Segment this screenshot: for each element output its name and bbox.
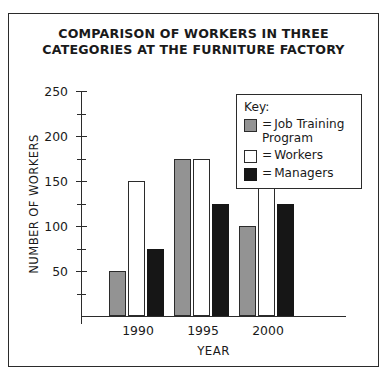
y-tick-100: 100 (76, 226, 87, 227)
y-tick-label-100: 100 (44, 219, 68, 234)
y-tick-label-250: 250 (44, 84, 68, 99)
legend-title: Key: (244, 100, 355, 114)
bar-2000-managers (277, 204, 294, 317)
x-axis-title: YEAR (81, 344, 346, 358)
chart-title-line-2: CATEGORIES AT THE FURNITURE FACTORY (9, 42, 378, 58)
legend-equals-sign-1: = (262, 117, 272, 131)
y-tick-label-150: 150 (44, 174, 68, 189)
legend-swatch-job-training-program-icon (244, 119, 257, 132)
legend-equals-sign-3: = (262, 166, 272, 180)
chart-title: COMPARISON OF WORKERS IN THREE CATEGORIE… (9, 26, 378, 58)
bar-2000-job-training-program (239, 226, 256, 316)
legend-equals-sign-2: = (262, 148, 272, 162)
chart-title-line-1: COMPARISON OF WORKERS IN THREE (9, 26, 378, 42)
legend-item-job-training-program: =Job Training Program (244, 117, 355, 145)
legend-item-managers: =Managers (244, 166, 355, 181)
y-tick-175 (77, 159, 86, 160)
y-tick-200: 200 (76, 136, 87, 137)
y-tick-250: 250 (76, 91, 87, 92)
y-tick-125 (77, 204, 86, 205)
y-tick-25 (77, 294, 86, 295)
legend-label-text-1: Job Training Program (262, 117, 344, 145)
legend-label-text-2: Workers (274, 148, 323, 162)
y-tick-75 (77, 249, 86, 250)
legend-swatch-managers-icon (244, 168, 257, 181)
x-tick-label-1990: 1990 (122, 323, 154, 338)
y-tick-label-50: 50 (52, 264, 68, 279)
y-axis-line (81, 91, 82, 324)
y-tick-label-200: 200 (44, 129, 68, 144)
y-tick-150: 150 (76, 181, 87, 182)
legend-item-workers: =Workers (244, 148, 355, 163)
bar-group-1990 (109, 91, 167, 316)
bar-1990-managers (147, 249, 164, 317)
bar-1990-workers (128, 181, 145, 316)
bar-group-1995 (174, 91, 232, 316)
bar-1995-managers (212, 204, 229, 317)
legend-label-job-training-program: =Job Training Program (262, 117, 355, 145)
y-axis-title: NUMBER OF WORKERS (25, 91, 43, 316)
legend-label-workers: =Workers (262, 148, 323, 162)
legend-swatch-workers-icon (244, 150, 257, 163)
y-tick-50: 50 (76, 271, 87, 272)
chart-figure: COMPARISON OF WORKERS IN THREE CATEGORIE… (8, 13, 379, 367)
y-axis-title-label: NUMBER OF WORKERS (27, 134, 41, 273)
x-axis-line (81, 316, 346, 317)
y-tick-225 (77, 114, 86, 115)
bar-1995-workers (193, 159, 210, 317)
bar-1990-job-training-program (109, 271, 126, 316)
chart-legend: Key: =Job Training Program =Workers =Man… (236, 94, 362, 189)
x-tick-label-1995: 1995 (187, 323, 219, 338)
legend-label-text-3: Managers (274, 166, 333, 180)
legend-label-managers: =Managers (262, 166, 333, 180)
bar-1995-job-training-program (174, 159, 191, 317)
x-tick-label-2000: 2000 (252, 323, 284, 338)
